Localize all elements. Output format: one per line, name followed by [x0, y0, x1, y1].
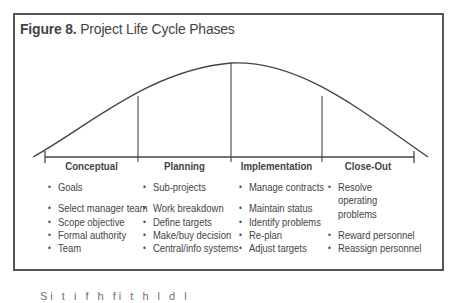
list-item: Sub-projects: [143, 181, 239, 194]
list-item: Reward personnel: [328, 229, 421, 242]
list-item: Goals: [48, 181, 148, 194]
phase-label-conceptual: Conceptual: [51, 160, 133, 172]
list-item: Formal authority: [48, 229, 148, 242]
list-item: Identify problems: [239, 216, 324, 229]
list-item: Define targets: [143, 216, 239, 229]
list-item: Maintain status: [239, 202, 324, 215]
list-item: Central/info systems: [143, 242, 239, 255]
list-item: Select manager team: [48, 202, 148, 215]
phase-label-implementation: Implementation: [236, 160, 316, 172]
phase-list-conceptual: Goals Select manager team Scope objectiv…: [48, 181, 148, 255]
list-item: Scope objective: [48, 216, 148, 229]
phase-list-planning: Sub-projects Work breakdown Define targe…: [143, 181, 239, 255]
cut-off-caption-text: Si t i f h fi t h l d l: [40, 290, 190, 302]
list-item: Adjust targets: [239, 242, 324, 255]
life-cycle-curve-diagram: [0, 0, 458, 303]
list-item: Team: [48, 242, 148, 255]
list-item: Work breakdown: [143, 202, 239, 215]
phase-label-planning: Planning: [144, 160, 226, 172]
phase-list-implementation: Manage contracts Maintain status Identif…: [239, 181, 324, 255]
list-item: Make/buy decision: [143, 229, 239, 242]
phase-label-close-out: Close-Out: [328, 160, 409, 172]
phase-list-close-out: Resolve operating problems Reward person…: [328, 181, 421, 255]
list-item: Manage contracts: [239, 181, 324, 194]
list-item: Re-plan: [239, 229, 324, 242]
list-item: Resolve operating problems: [328, 181, 412, 221]
list-item: Reassign personnel: [328, 242, 421, 255]
